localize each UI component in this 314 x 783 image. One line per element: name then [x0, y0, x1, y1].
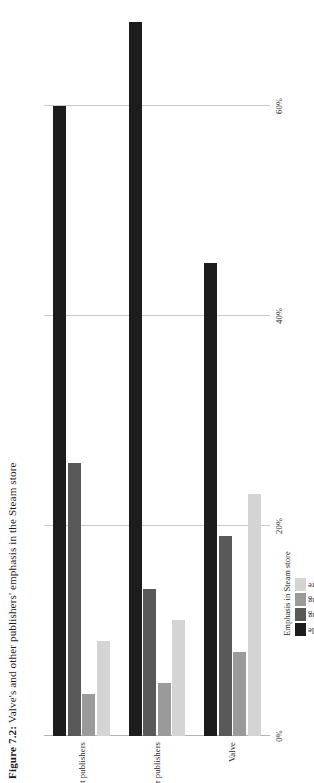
- figure-caption: Figure 7.2: Valve's and other publishers…: [6, 462, 18, 779]
- bar: [68, 463, 81, 736]
- legend-item[interactable]: Upselling: [295, 593, 314, 606]
- legend-swatch: [295, 623, 306, 636]
- legend-label: Emphasis elsewhere: [308, 580, 314, 588]
- bar: [129, 22, 142, 736]
- legend-label: Initial point of sale and upselling: [308, 610, 314, 618]
- figure-container: Figure 7.2: Valve's and other publishers…: [0, 0, 314, 783]
- legend-item[interactable]: Emphasis elsewhere: [295, 578, 314, 591]
- legend-swatch: [295, 608, 306, 621]
- legend-label: Upselling: [308, 595, 314, 603]
- legend-label: Initial point of sale: [308, 625, 314, 633]
- category-label: Other publishers: [152, 742, 162, 783]
- legend-title: Emphasis in Steam store: [282, 551, 292, 636]
- chart-legend: Emphasis in Steam store Initial point of…: [282, 551, 314, 636]
- legend-items: Initial point of saleInitial point of sa…: [295, 551, 314, 636]
- bar: [82, 694, 95, 736]
- bar-group: Other publishers: [119, 22, 194, 736]
- legend-swatch: [295, 578, 306, 591]
- figure-caption-text: Valve's and other publishers' emphasis i…: [6, 462, 18, 723]
- x-tick-label: 20%: [274, 518, 284, 534]
- figure-caption-label: Figure 7.2:: [6, 726, 18, 779]
- bar: [158, 684, 171, 737]
- bar: [97, 642, 110, 737]
- x-tick-label: 60%: [274, 98, 284, 114]
- bar-group: 25 largest publishers: [44, 22, 119, 736]
- category-label: Valve: [227, 742, 237, 762]
- legend-swatch: [295, 593, 306, 606]
- bar: [233, 652, 246, 736]
- category-label: 25 largest publishers: [77, 742, 87, 783]
- plot-area: 0%20%40%60% 25 largest publishersOther p…: [44, 22, 270, 736]
- bar: [219, 537, 232, 737]
- bar: [53, 106, 66, 736]
- bar: [143, 589, 156, 736]
- bar: [204, 264, 217, 737]
- legend-item[interactable]: Initial point of sale: [295, 623, 314, 636]
- bar: [172, 621, 185, 737]
- x-tick-label: 40%: [274, 308, 284, 324]
- bar: [248, 495, 261, 737]
- legend-item[interactable]: Initial point of sale and upselling: [295, 608, 314, 621]
- bar-group: Valve: [195, 22, 270, 736]
- x-tick-label: 0%: [274, 730, 284, 741]
